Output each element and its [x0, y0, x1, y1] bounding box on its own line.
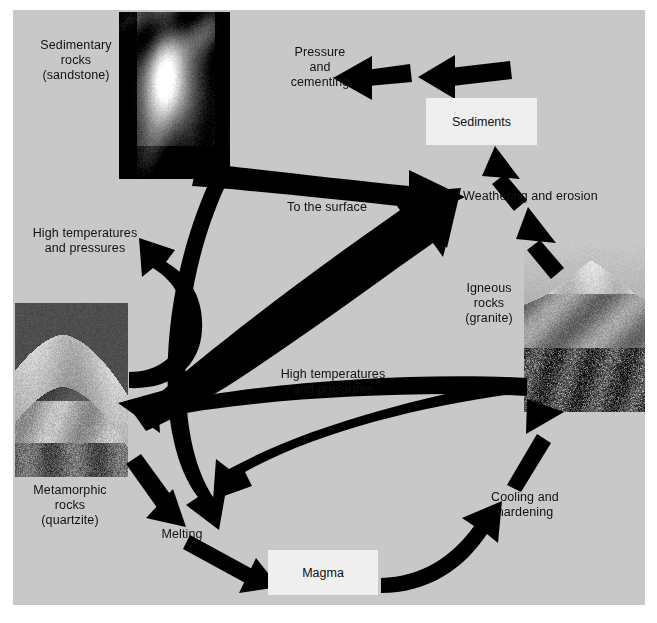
melting-label: Melting: [148, 527, 216, 542]
arrow-layer: [0, 0, 657, 623]
igneous-rocks-label: Igneous rocks (granite): [450, 281, 528, 326]
high-temperatures-left-label: High temperatures and pressures: [20, 226, 150, 256]
arrow-weathering-to-pressure-tail: [450, 61, 512, 86]
arrow-melting-to-magma-tail: [183, 535, 256, 585]
sediments-box: Sediments: [426, 98, 537, 145]
arrow-weathering-to-pressure-head: [418, 55, 455, 99]
to-the-surface-label: To the surface: [268, 200, 386, 215]
arrow-cooling-to-igneous-head: [526, 399, 564, 434]
magma-box: Magma: [268, 550, 378, 595]
magma-box-label: Magma: [302, 566, 344, 580]
arrow-sediments-to-sedimentary-tail: [366, 64, 412, 86]
arrow-weathering-to-sediments-head: [482, 146, 520, 179]
rock-cycle-diagram: Sediments Magma Sedimentary rocks (sands…: [0, 0, 657, 623]
pressure-and-cementing-label: Pressure and cementing: [270, 45, 370, 90]
high-temperatures-center-label: High temperatures and pressures: [268, 367, 398, 397]
cooling-and-hardening-label: Cooling and hardening: [477, 490, 573, 520]
arrow-igneous-to-weathering-tail: [527, 240, 564, 279]
arrow-cooling-to-igneous-tail: [507, 434, 551, 492]
weathering-and-erosion-label: Weathering and erosion: [463, 189, 613, 204]
sediments-box-label: Sediments: [452, 115, 511, 129]
sedimentary-rocks-label: Sedimentary rocks (sandstone): [24, 38, 128, 83]
metamorphic-rocks-label: Metamorphic rocks (quartzite): [14, 483, 126, 528]
arrow-igneous-to-weathering-head: [516, 207, 556, 243]
